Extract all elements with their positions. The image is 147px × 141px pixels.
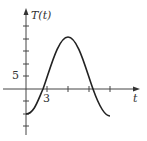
chart-plot — [0, 0, 147, 141]
x-axis-label: t — [133, 93, 137, 104]
y-axis-arrow-icon — [24, 8, 29, 15]
x-axis-arrow-icon — [133, 87, 140, 92]
x-tick-label: 3 — [43, 93, 50, 104]
y-tick-label: 5 — [12, 70, 19, 81]
curve-T — [26, 37, 110, 116]
y-axis-label: T(t) — [31, 10, 51, 21]
